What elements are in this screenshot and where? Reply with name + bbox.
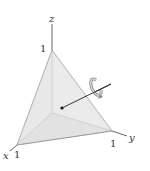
- y-axis-label: y: [128, 132, 135, 143]
- y-tick-label: 1: [110, 138, 116, 149]
- y-axis: [112, 131, 127, 136]
- x-axis-label: x: [3, 150, 9, 161]
- base-point-icon: [60, 106, 63, 109]
- z-axis-label: z: [48, 13, 55, 24]
- tetrahedron-diagram: z 1 x 1 y 1: [0, 0, 150, 171]
- x-tick-label: 1: [14, 149, 20, 160]
- z-tick-label: 1: [40, 43, 46, 54]
